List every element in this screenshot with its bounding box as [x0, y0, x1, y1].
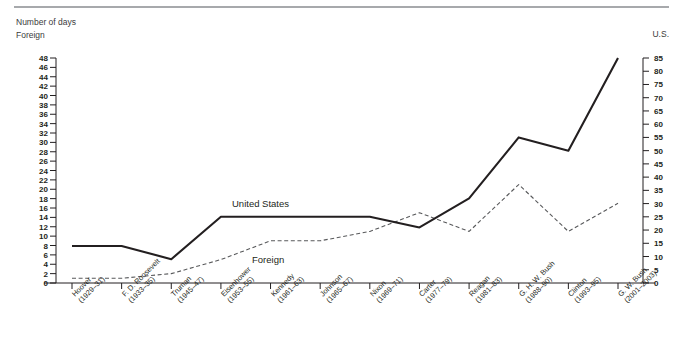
right-axis-tick-label: 80 [654, 67, 663, 76]
left-axis-tick-label: 18 [22, 194, 48, 203]
left-axis-tick-label: 22 [22, 175, 48, 184]
left-axis-tick-label: 42 [22, 82, 48, 91]
right-axis-tick-label: 75 [654, 80, 663, 89]
left-axis-tick-label: 30 [22, 138, 48, 147]
right-axis-tick-label: 40 [654, 173, 663, 182]
right-axis-tick-label: 20 [654, 226, 663, 235]
right-axis-tick-label: 60 [654, 120, 663, 129]
right-axis-tick-label: 15 [654, 239, 663, 248]
right-axis-tick-label: 10 [654, 252, 663, 261]
left-axis-tick-label: 16 [22, 204, 48, 213]
right-axis-tick-label: 0 [654, 279, 658, 288]
left-axis-tick-label: 38 [22, 100, 48, 109]
right-axis-tick-label: 85 [654, 54, 663, 63]
series-annotation-united-states: United States [232, 198, 289, 209]
left-axis-tick-label: 48 [22, 54, 48, 63]
left-axis-tick-label: 28 [22, 147, 48, 156]
right-axis-tick-label: 70 [654, 93, 663, 102]
right-axis-tick-label: 50 [654, 146, 663, 155]
left-axis-tick-label: 0 [22, 279, 48, 288]
left-axis-tick-label: 32 [22, 129, 48, 138]
right-axis-tick-label: 25 [654, 212, 663, 221]
right-axis-ticks [643, 58, 649, 283]
left-axis-tick-label: 20 [22, 185, 48, 194]
left-axis-tick-label: 34 [22, 119, 48, 128]
right-axis-tick-label: 30 [654, 199, 663, 208]
left-axis-ticks [50, 58, 56, 283]
series-line-united-states [72, 58, 618, 259]
left-axis-tick-label: 4 [22, 260, 48, 269]
series-annotation-foreign: Foreign [252, 254, 284, 265]
left-axis-tick-label: 14 [22, 213, 48, 222]
left-axis-tick-label: 24 [22, 166, 48, 175]
left-axis-tick-label: 6 [22, 250, 48, 259]
left-axis-tick-label: 8 [22, 241, 48, 250]
left-axis-tick-label: 44 [22, 72, 48, 81]
right-axis-tick-label: 35 [654, 186, 663, 195]
right-axis-tick-label: 55 [654, 133, 663, 142]
left-axis-tick-label: 26 [22, 157, 48, 166]
left-axis-tick-label: 46 [22, 63, 48, 72]
left-axis-tick-label: 40 [22, 91, 48, 100]
left-axis-tick-label: 36 [22, 110, 48, 119]
right-axis-tick-label: 45 [654, 159, 663, 168]
right-axis-tick-label: 65 [654, 106, 663, 115]
left-axis-tick-label: 12 [22, 222, 48, 231]
left-axis-tick-label: 2 [22, 269, 48, 278]
left-axis-tick-label: 10 [22, 232, 48, 241]
